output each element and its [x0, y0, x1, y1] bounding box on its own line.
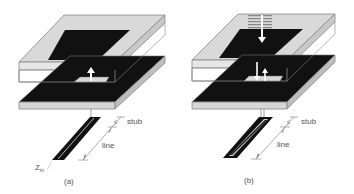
stub-label: stub [127, 117, 143, 126]
panel-b: stub line (b) [192, 14, 335, 185]
panel-a: stub line Zin (a) [19, 15, 165, 186]
line-label: line [102, 141, 115, 150]
microstrip-feed-line [223, 117, 273, 158]
stub-label: stub [301, 117, 317, 126]
stub-dimension [280, 117, 298, 127]
caption-b: (b) [244, 176, 254, 185]
stub-dimension [108, 117, 125, 127]
ground-slot-aperture [244, 76, 283, 81]
caption-a: (a) [64, 177, 74, 186]
microstrip-feed-line [52, 117, 101, 160]
input-impedance-label: Zin [35, 163, 44, 173]
diagram-canvas: stub line Zin (a) [0, 0, 354, 194]
line-label: line [277, 140, 290, 149]
